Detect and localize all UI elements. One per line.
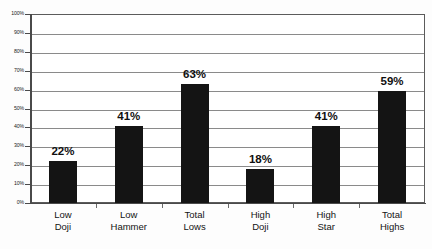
bar-value-label: 59% xyxy=(362,76,422,88)
bar xyxy=(115,126,143,203)
y-axis-tick-label: 70% xyxy=(0,68,24,73)
plot-area xyxy=(30,14,425,203)
x-axis-tick xyxy=(228,204,229,208)
bar xyxy=(312,126,340,203)
y-axis-tick-label: 0% xyxy=(0,200,24,205)
bar-value-label: 18% xyxy=(230,154,290,166)
y-axis-tick xyxy=(25,203,31,204)
gridline xyxy=(31,53,424,54)
gridline xyxy=(31,34,424,35)
y-axis-tick xyxy=(25,14,31,15)
bar-value-label: 22% xyxy=(33,146,93,158)
y-axis-tick-label: 80% xyxy=(0,49,24,54)
x-axis-tick xyxy=(162,204,163,208)
bar xyxy=(246,169,274,203)
y-axis-tick xyxy=(25,52,31,53)
y-axis-tick-label: 30% xyxy=(0,143,24,148)
bar-value-label: 41% xyxy=(296,111,356,123)
category-label-line-2: Highs xyxy=(352,221,432,233)
x-axis-tick xyxy=(359,204,360,208)
y-axis-tick xyxy=(25,127,31,128)
category-label-line-1: Total xyxy=(352,209,432,221)
bar xyxy=(181,84,209,203)
gridline xyxy=(31,72,424,73)
y-axis-tick-label: 40% xyxy=(0,124,24,129)
gridline xyxy=(31,110,424,111)
y-axis-tick xyxy=(25,184,31,185)
bar xyxy=(378,91,406,203)
y-axis-tick xyxy=(25,71,31,72)
x-axis-category-label: TotalHighs xyxy=(352,209,432,232)
gridline xyxy=(31,166,424,167)
y-axis-tick xyxy=(25,33,31,34)
bar xyxy=(49,161,77,203)
y-axis-tick-label: 20% xyxy=(0,162,24,167)
gridline xyxy=(31,185,424,186)
bar-chart: 100%90%80%70%60%50%40%30%20%10%0% 22%Low… xyxy=(0,0,432,249)
bar-value-label: 41% xyxy=(99,111,159,123)
y-axis-tick xyxy=(25,165,31,166)
y-axis-tick-label: 100% xyxy=(0,11,24,16)
y-axis-tick-label: 60% xyxy=(0,87,24,92)
y-axis-tick xyxy=(25,90,31,91)
y-axis-tick xyxy=(25,146,31,147)
x-axis-tick xyxy=(293,204,294,208)
y-axis-tick xyxy=(25,109,31,110)
y-axis-tick-label: 50% xyxy=(0,106,24,111)
y-axis-labels: 100%90%80%70%60%50%40%30%20%10%0% xyxy=(0,0,24,249)
bar-value-label: 63% xyxy=(165,69,225,81)
y-axis-tick-label: 10% xyxy=(0,181,24,186)
y-axis-tick-label: 90% xyxy=(0,30,24,35)
gridline xyxy=(31,91,424,92)
x-axis-tick xyxy=(96,204,97,208)
gridline xyxy=(31,128,424,129)
